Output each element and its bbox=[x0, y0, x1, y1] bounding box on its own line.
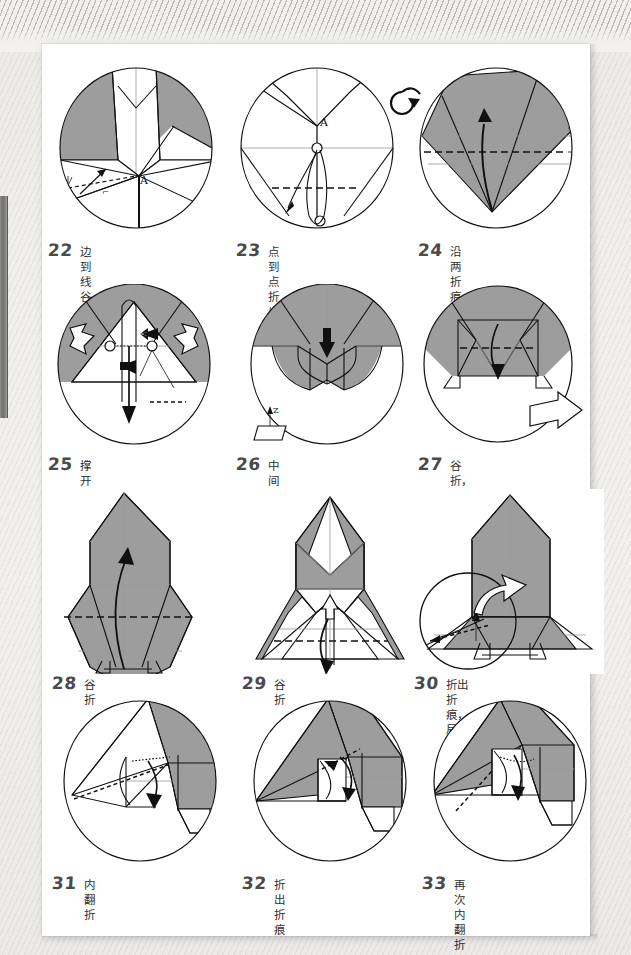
step-28-number: 28 bbox=[51, 675, 77, 691]
point-label-A-23: A bbox=[319, 116, 329, 129]
step-31-figure bbox=[52, 699, 232, 874]
step-23-number: 23 bbox=[235, 242, 261, 258]
step-33-number: 33 bbox=[421, 875, 447, 891]
page-root: ⌐ A 22 边到线谷折 bbox=[0, 0, 631, 955]
step-22-figure: ⌐ A bbox=[44, 64, 234, 244]
step-28-figure bbox=[52, 489, 232, 674]
step-32-caption: 32 折出折痕 bbox=[242, 875, 285, 938]
step-25-number: 25 bbox=[47, 456, 73, 472]
step-22-number: 22 bbox=[47, 242, 73, 258]
point-label-A-22: A bbox=[139, 174, 149, 187]
step-30-number: 30 bbox=[413, 675, 439, 691]
step-27-figure bbox=[414, 284, 599, 459]
step-24-number: 24 bbox=[417, 242, 443, 258]
step-33-caption: 33 再次内翻折 bbox=[422, 875, 465, 953]
step-30-figure bbox=[414, 489, 604, 674]
step-32-text: 折出折痕 bbox=[274, 875, 285, 938]
step-25-figure bbox=[44, 284, 234, 459]
steps-grid: ⌐ A 22 边到线谷折 bbox=[42, 44, 590, 936]
left-edge-tab bbox=[0, 196, 8, 418]
step-27-number: 27 bbox=[417, 456, 443, 472]
step-24-figure bbox=[414, 64, 594, 244]
step-33-figure bbox=[422, 699, 602, 874]
step-31-number: 31 bbox=[51, 875, 77, 891]
svg-text:Z: Z bbox=[273, 406, 279, 415]
svg-text:⌐: ⌐ bbox=[102, 188, 109, 197]
step-32-number: 32 bbox=[241, 875, 267, 891]
step-32-figure bbox=[242, 699, 422, 874]
step-29-number: 29 bbox=[241, 675, 267, 691]
step-26-number: 26 bbox=[235, 456, 261, 472]
step-23-figure: A bbox=[232, 64, 432, 244]
step-33-text: 再次内翻折 bbox=[454, 875, 465, 953]
step-29-figure bbox=[242, 489, 422, 674]
step-26-figure: Z bbox=[232, 284, 432, 459]
step-31-text: 内翻折 bbox=[84, 875, 95, 923]
step-31-caption: 31 内翻折 bbox=[52, 875, 95, 923]
